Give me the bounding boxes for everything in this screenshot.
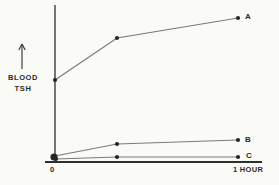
blood-tsh-line-chart: BLOOD TSH 0 1 HOUR A B C (0, 0, 279, 185)
data-point-C (54, 157, 58, 161)
series-label-b: B (245, 135, 251, 145)
x-tick-zero: 0 (50, 165, 54, 175)
series-label-a: A (245, 12, 251, 22)
curve-B (55, 140, 238, 156)
x-tick-one-hour: 1 HOUR (233, 165, 263, 175)
curve-C (56, 157, 238, 159)
data-point-A (53, 78, 57, 82)
data-point-A (236, 16, 240, 20)
data-point-A (115, 36, 119, 40)
y-axis-label-blood: BLOOD (0, 73, 46, 83)
y-axis-label-tsh: TSH (0, 84, 46, 94)
series-label-c: C (246, 151, 252, 161)
curve-A (55, 18, 238, 80)
data-point-C (236, 155, 240, 159)
data-point-B (115, 142, 119, 146)
data-point-B (236, 138, 240, 142)
data-point-C (115, 155, 119, 159)
